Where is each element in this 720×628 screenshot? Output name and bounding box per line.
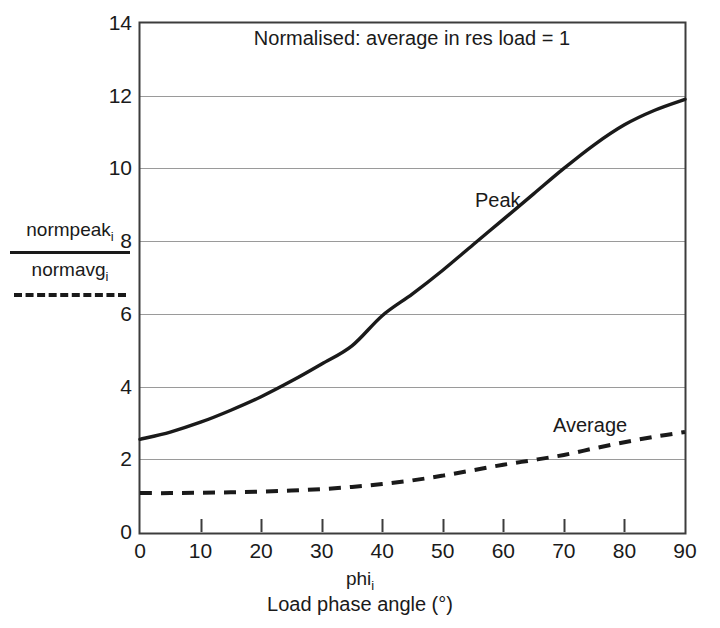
x-axis-symbol-label: phii: [0, 569, 720, 595]
x-tick-label-30: 30: [292, 540, 352, 561]
x-axis-title: Load phase angle (°): [0, 594, 720, 614]
x-tick-label-70: 70: [534, 540, 594, 561]
x-tick-label-0: 0: [110, 540, 170, 561]
x-tick-label-60: 60: [473, 540, 533, 561]
x-tick-label-20: 20: [231, 540, 291, 561]
x-tick-label-10: 10: [171, 540, 231, 561]
x-tick-label-50: 50: [413, 540, 473, 561]
chart-figure: Normalised: average in res load = 1 Peak…: [0, 0, 720, 628]
x-axis-tick-labels: 0102030405060708090: [0, 0, 720, 628]
x-tick-label-80: 80: [594, 540, 654, 561]
x-tick-label-90: 90: [655, 540, 715, 561]
x-axis-symbol-text: phi: [346, 568, 371, 589]
x-axis-symbol-subscript: i: [371, 578, 374, 593]
x-tick-label-40: 40: [352, 540, 412, 561]
